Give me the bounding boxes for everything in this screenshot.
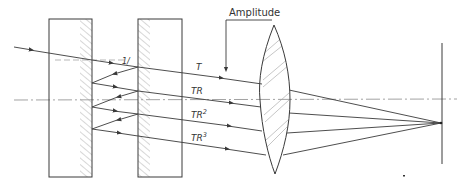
beam-t-label: T: [196, 62, 203, 72]
beam-tr-label: TR: [191, 86, 203, 96]
beam-tr3: [138, 136, 228, 149]
fabry-perot-diagram: Amplitude 1/ T TR TR2 TR3: [0, 0, 466, 189]
beam-tr2-label: TR2: [191, 108, 207, 120]
amplitude-label: Amplitude: [229, 7, 280, 18]
converging-rays: [283, 90, 441, 155]
beam-tr3-label: TR3: [191, 131, 207, 143]
plate-2: [138, 19, 182, 177]
beam-t: [138, 67, 222, 78]
focus-point: [440, 122, 443, 125]
internal-reflections: [92, 60, 138, 136]
beam-tr: [138, 91, 232, 103]
beam-tr2: [138, 114, 230, 126]
amplitude-pointer: [226, 20, 272, 70]
plate-1: [49, 19, 92, 177]
stray-mark: [403, 175, 405, 177]
incident-label: 1/: [122, 57, 131, 66]
